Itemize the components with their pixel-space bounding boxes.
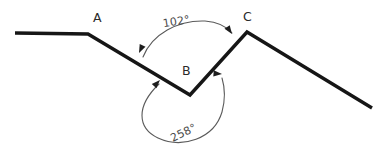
geometry-diagram-svg: A B C 102° 258° bbox=[0, 0, 384, 151]
geometry-diagram-canvas: A B C 102° 258° bbox=[0, 0, 384, 151]
angle-label-258: 258° bbox=[168, 121, 198, 145]
vertex-label-A: A bbox=[93, 10, 102, 25]
angle-arc-258-arrow-end bbox=[213, 70, 222, 77]
polyline-path-A-B-C bbox=[15, 32, 372, 108]
angle-label-102: 102° bbox=[162, 13, 191, 30]
angle-arc-102-arrow-end bbox=[225, 25, 235, 36]
vertex-label-B: B bbox=[182, 63, 191, 78]
angle-arc-102-arrow-start bbox=[136, 44, 145, 54]
vertex-label-C: C bbox=[243, 9, 252, 24]
